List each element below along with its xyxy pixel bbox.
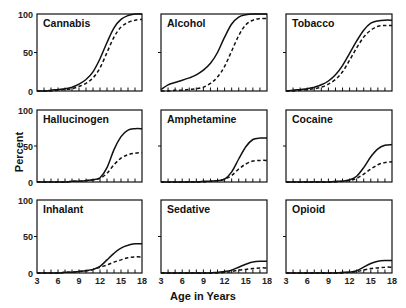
x-axis-label: Age in Years <box>0 290 406 302</box>
panel-title: Hallucinogen <box>43 113 109 125</box>
series-dashed-line <box>161 160 267 182</box>
x-tick-label: 18 <box>387 276 397 286</box>
x-tick-label: 6 <box>180 276 185 286</box>
y-axis-label: Percent <box>13 127 25 177</box>
y-tick-label: 50 <box>23 48 33 58</box>
panel-sedative: 369121518Sedative <box>158 200 272 286</box>
series-dashed-line <box>161 19 267 92</box>
panel-title: Amphetamine <box>167 113 237 125</box>
series-solid-line <box>286 261 392 273</box>
y-tick-label: 0 <box>28 87 33 97</box>
series-solid-line <box>161 138 267 182</box>
x-tick-label: 15 <box>366 276 376 286</box>
panel-amphetamine: Amphetamine <box>158 110 267 182</box>
series-solid-line <box>286 145 392 182</box>
x-tick-label: 18 <box>137 276 147 286</box>
panel-title: Sedative <box>167 203 210 215</box>
panel-hallucinogen: 050100Hallucinogen <box>18 106 142 188</box>
panel-title: Opioid <box>292 203 325 215</box>
x-tick-label: 3 <box>34 276 39 286</box>
x-tick-label: 15 <box>116 276 126 286</box>
series-dashed-line <box>286 25 392 91</box>
x-tick-label: 6 <box>305 276 310 286</box>
x-tick-label: 12 <box>220 276 230 286</box>
series-dashed-line <box>286 162 392 182</box>
panel-cocaine: Cocaine <box>283 110 392 182</box>
panel-title: Alcohol <box>167 17 206 29</box>
x-tick-label: 12 <box>345 276 355 286</box>
x-tick-label: 9 <box>201 276 206 286</box>
panel-title: Cannabis <box>43 17 90 29</box>
panel-alcohol: Alcohol <box>158 14 267 91</box>
panel-tobacco: Tobacco <box>283 14 392 91</box>
x-tick-label: 12 <box>95 276 105 286</box>
y-tick-label: 100 <box>18 196 33 206</box>
x-tick-label: 3 <box>158 276 163 286</box>
series-solid-line <box>286 20 392 91</box>
panel-opioid: 369121518Opioid <box>283 200 397 286</box>
panel-cannabis: 050100Cannabis <box>18 10 142 97</box>
y-tick-label: 100 <box>18 10 33 20</box>
x-tick-label: 6 <box>55 276 60 286</box>
y-tick-label: 100 <box>18 106 33 116</box>
panel-title: Inhalant <box>43 203 84 215</box>
panel-inhalant: 050100369121518Inhalant <box>18 196 147 287</box>
series-dashed-line <box>37 19 142 91</box>
x-tick-label: 3 <box>283 276 288 286</box>
x-tick-label: 15 <box>241 276 251 286</box>
x-tick-label: 18 <box>262 276 272 286</box>
y-tick-label: 0 <box>28 269 33 279</box>
series-solid-line <box>161 261 267 273</box>
x-tick-label: 9 <box>76 276 81 286</box>
x-tick-label: 9 <box>326 276 331 286</box>
y-tick-label: 50 <box>23 232 33 242</box>
panel-title: Tobacco <box>292 17 334 29</box>
series-dashed-line <box>37 153 142 183</box>
panel-title: Cocaine <box>292 113 333 125</box>
small-multiples-chart: 050100CannabisAlcoholTobacco050100Halluc… <box>0 0 406 308</box>
y-tick-label: 0 <box>28 178 33 188</box>
